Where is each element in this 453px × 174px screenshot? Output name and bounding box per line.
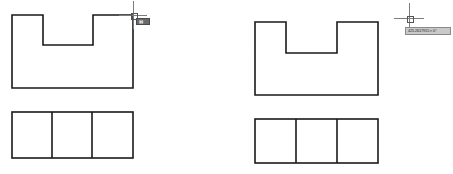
cad-screenshot: ▮▮ 425.2617915 < 0° <box>0 0 453 174</box>
left-drawing-canvas[interactable] <box>0 0 226 174</box>
u-shaped-profile-front-view[interactable] <box>12 15 133 88</box>
right-drawing-panel[interactable]: 425.2617915 < 0° <box>226 0 453 174</box>
left-drawing-panel[interactable]: ▮▮ <box>0 0 226 174</box>
three-cell-rectangle-top-view[interactable] <box>255 119 378 163</box>
dynamic-input-tooltip: ▮▮ <box>136 18 150 25</box>
three-cell-rectangle-top-view[interactable] <box>12 112 133 158</box>
dynamic-input-tooltip: 425.2617915 < 0° <box>405 27 451 35</box>
u-shaped-profile-front-view[interactable] <box>255 22 378 95</box>
